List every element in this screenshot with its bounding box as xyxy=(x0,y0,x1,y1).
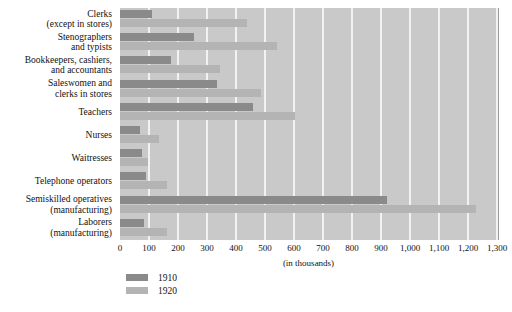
x-tick-label: 800 xyxy=(345,243,359,253)
x-axis-ticks: 01002003004005006007008009001,0001,1001,… xyxy=(120,243,497,257)
x-tick-label: 1,000 xyxy=(400,243,420,253)
chart-figure: Clerks(except in stores)Stenographersand… xyxy=(0,0,512,312)
category-label: Nurses xyxy=(0,130,112,141)
bar-1910 xyxy=(120,10,152,18)
chart-legend: 1910 1920 xyxy=(126,271,177,297)
category-label: Laborers(manufacturing) xyxy=(0,217,112,238)
x-tick-label: 200 xyxy=(171,243,185,253)
legend-swatch-icon-1910 xyxy=(126,274,148,281)
x-tick-label: 0 xyxy=(118,243,123,253)
legend-item-1910: 1910 xyxy=(126,271,177,284)
bar-1910 xyxy=(120,219,144,227)
bar-1920 xyxy=(120,228,167,236)
bar-1920 xyxy=(120,42,277,50)
x-tick-label: 400 xyxy=(229,243,243,253)
bar-1910 xyxy=(120,80,217,88)
plot-area xyxy=(120,8,499,240)
bar-group xyxy=(120,31,497,54)
bar-1920 xyxy=(120,181,167,189)
category-label: Bookkeepers, cashiers,and accountants xyxy=(0,55,112,76)
bar-1910 xyxy=(120,103,253,111)
category-label: Telephone operators xyxy=(0,176,112,187)
bar-1920 xyxy=(120,205,476,213)
x-tick-label: 1,200 xyxy=(458,243,478,253)
x-tick-label: 300 xyxy=(200,243,214,253)
x-tick-label: 1,300 xyxy=(487,243,507,253)
x-tick-label: 600 xyxy=(287,243,301,253)
bar-group xyxy=(120,8,497,31)
x-axis-title: (in thousands) xyxy=(120,258,497,268)
legend-label-1910: 1910 xyxy=(158,273,177,283)
category-label: Stenographersand typists xyxy=(0,32,112,53)
bar-group xyxy=(120,54,497,77)
bar-1920 xyxy=(120,65,220,73)
bar-1910 xyxy=(120,149,142,157)
legend-swatch-icon-1920 xyxy=(126,287,148,294)
bar-1920 xyxy=(120,112,295,120)
bars-layer xyxy=(120,8,497,240)
category-label: Teachers xyxy=(0,107,112,118)
bar-1920 xyxy=(120,135,159,143)
bar-1910 xyxy=(120,33,194,41)
bar-group xyxy=(120,170,497,193)
legend-label-1920: 1920 xyxy=(158,286,177,296)
category-label: Saleswomen andclerks in stores xyxy=(0,78,112,99)
bar-1920 xyxy=(120,89,261,97)
bar-group xyxy=(120,194,497,217)
category-label: Waitresses xyxy=(0,153,112,164)
x-tick-label: 700 xyxy=(316,243,330,253)
x-tick-label: 900 xyxy=(374,243,388,253)
x-tick-label: 1,100 xyxy=(429,243,449,253)
bar-group xyxy=(120,217,497,240)
category-label: Semiskilled operatives(manufacturing) xyxy=(0,194,112,215)
bar-1920 xyxy=(120,158,148,166)
category-axis-labels: Clerks(except in stores)Stenographersand… xyxy=(0,8,116,240)
bar-group xyxy=(120,101,497,124)
bar-1910 xyxy=(120,56,171,64)
bar-group xyxy=(120,124,497,147)
x-tick-label: 500 xyxy=(258,243,272,253)
bar-1910 xyxy=(120,196,387,204)
legend-item-1920: 1920 xyxy=(126,284,177,297)
bar-1920 xyxy=(120,19,247,27)
bar-1910 xyxy=(120,172,146,180)
category-label: Clerks(except in stores) xyxy=(0,9,112,30)
x-tick-label: 100 xyxy=(142,243,156,253)
bar-group xyxy=(120,147,497,170)
bar-group xyxy=(120,78,497,101)
bar-1910 xyxy=(120,126,140,134)
